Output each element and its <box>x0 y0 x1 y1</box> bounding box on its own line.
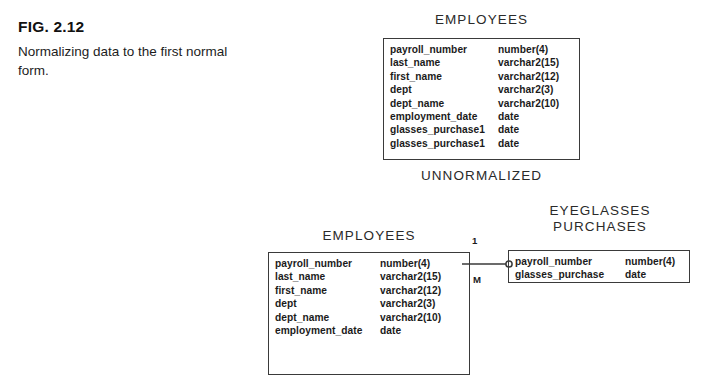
attribute-name: payroll_number <box>384 43 498 56</box>
attribute-name: glasses_purchase1 <box>384 123 498 136</box>
attribute-name: first_name <box>269 284 380 297</box>
attribute-name: dept <box>384 83 498 96</box>
attribute-type: date <box>380 324 401 337</box>
attribute-name: dept_name <box>269 311 380 324</box>
attribute-type: varchar2(10) <box>380 311 441 324</box>
entity-title-unnormalized-employees: EMPLOYEES <box>383 12 580 28</box>
entity-title-eyeglasses-purchases: EYEGLASSES PURCHASES <box>510 203 690 236</box>
attribute-name: glasses_purchase1 <box>384 137 498 150</box>
attribute-type: varchar2(15) <box>498 56 559 69</box>
cardinality-one-label: 1 <box>472 236 477 246</box>
attribute-row: last_name varchar2(15) <box>269 270 469 283</box>
entity-box-unnormalized-employees: payroll_number number(4) last_name varch… <box>383 38 580 160</box>
entity-box-employees: payroll_number number(4) last_name varch… <box>268 252 470 375</box>
attribute-name: last_name <box>384 56 498 69</box>
attribute-row: last_name varchar2(15) <box>384 56 579 69</box>
figure-caption: FIG. 2.12 Normalizing data to the first … <box>18 18 248 80</box>
attribute-name: dept <box>269 297 380 310</box>
figure-description: Normalizing data to the first normal for… <box>18 42 248 80</box>
attribute-row: dept varchar2(3) <box>384 83 579 96</box>
attribute-type: number(4) <box>380 257 430 270</box>
attribute-row: payroll_number number(4) <box>509 255 689 268</box>
entity-box-eyeglasses-purchases: payroll_number number(4) glasses_purchas… <box>508 250 690 283</box>
attribute-row: payroll_number number(4) <box>269 257 469 270</box>
relationship-line-icon <box>462 236 518 292</box>
attribute-row: glasses_purchase1 date <box>384 123 579 136</box>
attribute-type: varchar2(15) <box>380 270 441 283</box>
attribute-row: dept_name varchar2(10) <box>384 97 579 110</box>
attribute-name: employment_date <box>269 324 380 337</box>
attribute-type: varchar2(12) <box>498 70 559 83</box>
attribute-type: varchar2(12) <box>380 284 441 297</box>
entity-title-employees: EMPLOYEES <box>268 228 470 244</box>
attribute-name: last_name <box>269 270 380 283</box>
attribute-row: glasses_purchase1 date <box>384 137 579 150</box>
attribute-type: varchar2(3) <box>498 83 553 96</box>
attribute-name: first_name <box>384 70 498 83</box>
attribute-row: dept varchar2(3) <box>269 297 469 310</box>
attribute-type: date <box>498 110 519 123</box>
attribute-type: date <box>498 123 519 136</box>
figure-number: FIG. 2.12 <box>18 18 248 35</box>
attribute-name: dept_name <box>384 97 498 110</box>
attribute-type: date <box>498 137 519 150</box>
attribute-row: first_name varchar2(12) <box>269 284 469 297</box>
relationship-connector: 1 M <box>462 236 518 292</box>
attribute-name: employment_date <box>384 110 498 123</box>
attribute-type: date <box>625 268 646 281</box>
attribute-name: glasses_purchase <box>509 268 625 281</box>
attribute-name: payroll_number <box>269 257 380 270</box>
attribute-row: employment_date date <box>384 110 579 123</box>
attribute-type: number(4) <box>498 43 548 56</box>
section-label-unnormalized: UNNORMALIZED <box>383 168 580 183</box>
attribute-type: varchar2(10) <box>498 97 559 110</box>
attribute-type: varchar2(3) <box>380 297 435 310</box>
cardinality-many-label: M <box>473 275 481 285</box>
attribute-name: payroll_number <box>509 255 625 268</box>
attribute-row: employment_date date <box>269 324 469 337</box>
attribute-row: payroll_number number(4) <box>384 43 579 56</box>
attribute-type: number(4) <box>625 255 675 268</box>
attribute-row: glasses_purchase date <box>509 268 689 281</box>
attribute-row: first_name varchar2(12) <box>384 70 579 83</box>
attribute-row: dept_name varchar2(10) <box>269 311 469 324</box>
